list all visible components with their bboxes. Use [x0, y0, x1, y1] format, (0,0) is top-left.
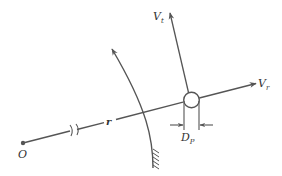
curved-flow-arrow [112, 49, 153, 168]
radial-line-segment-3 [116, 102, 183, 119]
radial-velocity-label: Vr [258, 77, 270, 92]
radius-label: r [106, 116, 112, 127]
diameter-label: DP [180, 131, 195, 146]
particle-velocity-diagram: O r Vr Vt DP [0, 0, 282, 176]
tangential-velocity-arrow [170, 13, 189, 93]
radial-line-segment-2 [77, 123, 104, 130]
tangential-velocity-label: Vt [153, 10, 164, 25]
radial-velocity-arrow [199, 84, 256, 99]
origin-label: O [18, 148, 27, 161]
particle-circle [184, 92, 200, 108]
radial-line-segment-1 [23, 131, 70, 143]
break-mark-icon [70, 124, 78, 136]
wall-hatch-icon [153, 149, 159, 169]
